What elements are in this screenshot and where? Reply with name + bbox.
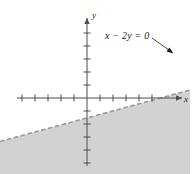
graph-canvas — [0, 0, 196, 174]
equation-label: x − 2y = 0 — [105, 30, 149, 41]
x-axis-label: x — [184, 94, 188, 104]
annotation-leader — [152, 38, 174, 53]
y-axis-label: y — [92, 10, 96, 20]
figure-coordinate-plane: x − 2y = 0 x y — [0, 0, 196, 174]
annotation-arrowhead — [167, 48, 174, 54]
y-axis-arrowhead — [84, 18, 89, 24]
shaded-region — [0, 90, 190, 174]
